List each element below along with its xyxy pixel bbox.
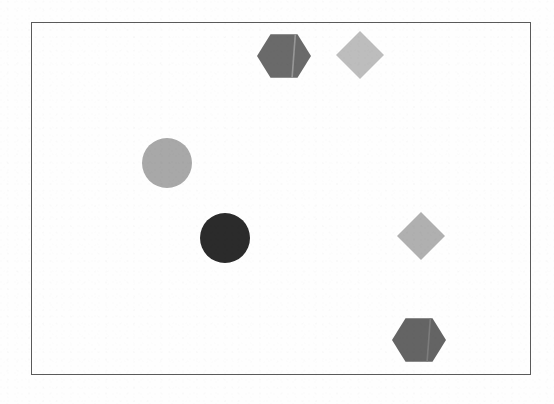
circle-dark-center	[196, 209, 254, 267]
circle-body	[142, 138, 192, 188]
diamond-body	[397, 212, 445, 260]
circle-body	[200, 213, 250, 263]
figure-canvas: Geometric shapes on white background	[0, 0, 554, 404]
hexagon-body	[392, 318, 446, 362]
hexagon-body	[257, 34, 311, 78]
hexagon-dark-top	[253, 25, 315, 87]
diamond-body	[336, 31, 384, 79]
diamond-light-right	[393, 208, 449, 264]
diamond-light-top	[332, 27, 388, 83]
circle-light-left	[138, 134, 196, 192]
hexagon-dark-bottom	[388, 309, 450, 371]
